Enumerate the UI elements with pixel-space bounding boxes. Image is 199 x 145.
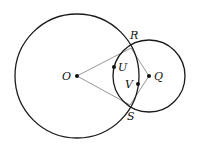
label-R: R (129, 29, 138, 42)
label-V: V (125, 78, 134, 91)
point-Q (147, 74, 151, 78)
geometry-diagram: O Q R S U V (0, 0, 199, 145)
label-U: U (118, 61, 128, 74)
point-U (112, 65, 116, 69)
label-O: O (62, 70, 71, 83)
point-O (75, 74, 79, 78)
label-Q: Q (154, 70, 163, 83)
point-V (136, 82, 140, 86)
label-S: S (127, 110, 135, 123)
